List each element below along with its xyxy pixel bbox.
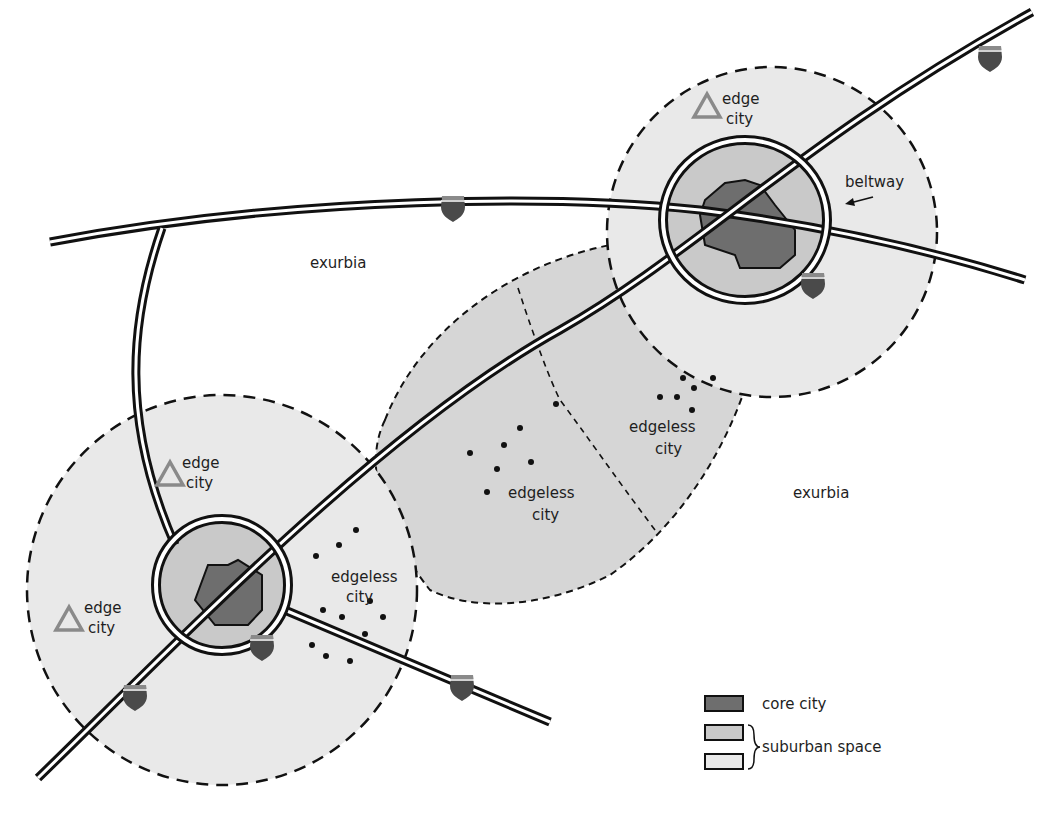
legend-label-core: core city — [762, 695, 827, 713]
legend-swatch-core — [705, 696, 743, 711]
legend: core city suburban space — [705, 695, 882, 769]
edgeless-city-label: city — [346, 588, 373, 606]
metropolitan-diagram: exurbia exurbia beltway edge city edge c… — [0, 0, 1053, 814]
edge-city-label: city — [726, 110, 753, 128]
legend-swatch-inner-suburb — [705, 725, 743, 740]
edge-city-label: edge — [84, 599, 122, 617]
edge-city-label: city — [186, 474, 213, 492]
exurbia-label: exurbia — [793, 484, 849, 502]
interstate-shield-icon — [978, 46, 1002, 72]
interstate-shield-icon — [441, 196, 465, 222]
edgeless-city-label: edgeless — [629, 418, 696, 436]
legend-swatch-outer-suburb — [705, 754, 743, 769]
edgeless-city-label: edgeless — [508, 484, 575, 502]
northeast-metro — [607, 67, 937, 397]
edge-city-label: city — [88, 619, 115, 637]
edge-city-label: edge — [182, 454, 220, 472]
edge-city-label: edge — [722, 90, 760, 108]
brace-icon — [748, 725, 760, 769]
edgeless-city-label: city — [532, 506, 559, 524]
edgeless-city-label: edgeless — [331, 568, 398, 586]
exurbia-label: exurbia — [310, 254, 366, 272]
diagram-canvas: exurbia exurbia beltway edge city edge c… — [0, 0, 1053, 814]
interstate-shield-icon — [450, 675, 474, 701]
edgeless-city-label: city — [655, 440, 682, 458]
beltway-label: beltway — [845, 173, 904, 191]
legend-label-suburban: suburban space — [762, 738, 882, 756]
